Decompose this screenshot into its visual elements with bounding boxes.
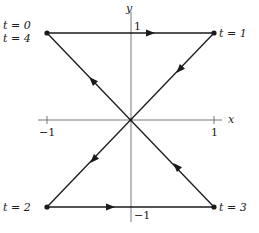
arrow-right-icon <box>106 204 115 211</box>
labels: y x −1 1 1 −1 t = 0 t = 4 t = 1 t = 2 t … <box>3 2 247 222</box>
point-label-t4: t = 4 <box>3 32 31 45</box>
y-tick-label-1: 1 <box>134 20 141 33</box>
point-t2 <box>44 204 49 209</box>
origin-point <box>130 119 133 122</box>
parametric-path-diagram: y x −1 1 1 −1 t = 0 t = 4 t = 1 t = 2 t … <box>0 0 259 233</box>
axes <box>38 12 222 222</box>
arrow-right-icon <box>146 30 155 37</box>
y-axis-label: y <box>125 2 133 15</box>
point-t3 <box>211 204 216 209</box>
x-axis-label: x <box>228 113 235 126</box>
point-label-t3: t = 3 <box>219 201 247 214</box>
point-t0 <box>44 30 49 35</box>
y-tick-label-neg1: −1 <box>134 209 150 222</box>
point-label-t0: t = 0 <box>3 19 31 32</box>
arrow-up-left-icon <box>171 161 182 172</box>
x-tick-label-1: 1 <box>211 126 218 139</box>
point-label-t1: t = 1 <box>219 27 247 40</box>
x-tick-label-neg1: −1 <box>39 126 55 139</box>
point-label-t2: t = 2 <box>3 201 31 214</box>
point-t1 <box>211 30 216 35</box>
